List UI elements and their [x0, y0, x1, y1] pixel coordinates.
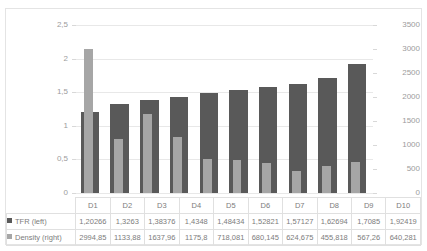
- table-cell-tfr-d5: 1,48434: [214, 214, 248, 230]
- table-cell-tfr-d3: 1,38376: [145, 214, 179, 230]
- bar-density-d6[interactable]: [233, 160, 242, 193]
- right-axis-tick-2: 1000: [374, 141, 420, 149]
- bar-density-d8[interactable]: [292, 171, 301, 193]
- table-col-header-d4: D4: [179, 198, 213, 214]
- table-cell-density-d4: 1175,8: [179, 230, 213, 246]
- bar-group-d3: [135, 25, 165, 193]
- table-col-header-d10: D10: [386, 198, 421, 214]
- right-axis-tick-4: 2000: [374, 93, 420, 101]
- table-cell-tfr-d6: 1,52821: [248, 214, 282, 230]
- table-cell-tfr-d1: 1,20266: [76, 214, 110, 230]
- table-cell-tfr-d10: 1,92419: [386, 214, 421, 230]
- left-axis-tick-2: 1: [6, 122, 68, 130]
- table-cell-density-d3: 1637,96: [145, 230, 179, 246]
- legend-item-density[interactable]: Density (right): [7, 230, 76, 246]
- bar-group-d5: [195, 25, 225, 193]
- bar-group-d10: [343, 25, 373, 193]
- bar-group-d2: [106, 25, 136, 193]
- bar-group-d9: [314, 25, 344, 193]
- bar-density-d1[interactable]: [84, 49, 93, 193]
- bar-group-d1: [76, 25, 106, 193]
- bar-group-d6: [225, 25, 255, 193]
- table-cell-tfr-d2: 1,3263: [110, 214, 144, 230]
- gridline-0: [76, 193, 373, 194]
- table-cell-density-d6: 680,145: [248, 230, 282, 246]
- bar-group-d4: [165, 25, 195, 193]
- left-tick-mark-0: [72, 193, 76, 194]
- table-col-header-d1: D1: [76, 198, 110, 214]
- bar-series-group: [76, 25, 373, 193]
- plot-wrapper: 00,511,522,50500100015002000250030003500: [6, 9, 421, 199]
- bar-density-d10[interactable]: [351, 162, 360, 193]
- bar-density-d9[interactable]: [322, 166, 331, 193]
- table-col-header-d9: D9: [351, 198, 385, 214]
- legend-item-tfr[interactable]: TFR (left): [7, 214, 76, 230]
- table-col-header-d8: D8: [317, 198, 351, 214]
- bar-density-d3[interactable]: [143, 114, 152, 193]
- left-axis-tick-4: 2: [6, 55, 68, 63]
- bar-group-d8: [284, 25, 314, 193]
- table-row-density: Density (right) 2994,851133,881637,96117…: [7, 230, 421, 246]
- plot-area: [76, 25, 373, 193]
- legend-label-density: Density (right): [15, 233, 62, 242]
- table-col-header-d7: D7: [283, 198, 317, 214]
- table-cell-tfr-d7: 1,57127: [283, 214, 317, 230]
- table-row-tfr: TFR (left) 1,202661,32631,383761,43481,4…: [7, 214, 421, 230]
- table-corner-cell: [7, 198, 76, 214]
- right-axis-tick-7: 3500: [374, 21, 420, 29]
- right-axis-tick-5: 2500: [374, 69, 420, 77]
- table-header-row: D1D2D3D4D5D6D7D8D9D10: [7, 198, 421, 214]
- left-axis-tick-1: 0,5: [6, 155, 68, 163]
- table-cell-tfr-d8: 1,62694: [317, 214, 351, 230]
- table-cell-density-d5: 718,081: [214, 230, 248, 246]
- bar-density-d5[interactable]: [203, 159, 212, 193]
- square-marker-icon-density: [7, 234, 12, 239]
- bar-density-d4[interactable]: [173, 137, 182, 193]
- left-axis-tick-0: 0: [6, 189, 68, 197]
- table-col-header-d6: D6: [248, 198, 282, 214]
- table-cell-density-d10: 640,281: [386, 230, 421, 246]
- right-axis-tick-6: 3000: [374, 45, 420, 53]
- clipped-chart-title: [0, 0, 427, 7]
- table-cell-density-d8: 455,818: [317, 230, 351, 246]
- table-cell-density-d9: 567,26: [351, 230, 385, 246]
- left-axis-tick-5: 2,5: [6, 21, 68, 29]
- legend-label-tfr: TFR (left): [15, 217, 47, 226]
- right-axis-tick-1: 500: [374, 165, 420, 173]
- chart-container: 00,511,522,50500100015002000250030003500…: [5, 8, 422, 245]
- square-marker-icon-tfr: [7, 218, 12, 223]
- bar-density-d7[interactable]: [262, 163, 271, 193]
- table-col-header-d5: D5: [214, 198, 248, 214]
- table-cell-tfr-d4: 1,4348: [179, 214, 213, 230]
- table-cell-density-d7: 624,675: [283, 230, 317, 246]
- chart-data-table: D1D2D3D4D5D6D7D8D9D10 TFR (left) 1,20266…: [6, 197, 421, 244]
- right-axis-tick-3: 1500: [374, 117, 420, 125]
- table-cell-tfr-d9: 1,7085: [351, 214, 385, 230]
- table-cell-density-d1: 2994,85: [76, 230, 110, 246]
- bar-density-d2[interactable]: [114, 139, 123, 193]
- bar-group-d7: [254, 25, 284, 193]
- table-cell-density-d2: 1133,88: [110, 230, 144, 246]
- left-axis-tick-3: 1,5: [6, 88, 68, 96]
- table-col-header-d3: D3: [145, 198, 179, 214]
- table-col-header-d2: D2: [110, 198, 144, 214]
- right-axis-tick-0: 0: [374, 189, 420, 197]
